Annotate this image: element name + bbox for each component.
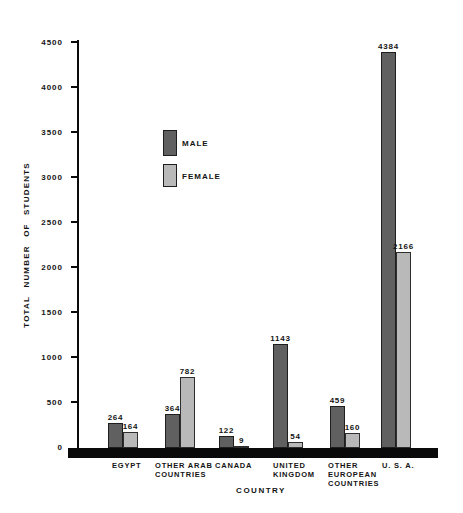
bar-female-0 <box>123 432 138 448</box>
value-label-male-5: 4384 <box>378 42 399 51</box>
bar-female-3 <box>288 442 303 448</box>
bar-female-2 <box>234 446 249 448</box>
value-label-male-4: 459 <box>330 396 346 405</box>
y-tick-label: 1500 <box>19 308 63 317</box>
value-label-male-2: 122 <box>219 426 235 435</box>
y-tick-mark <box>71 41 78 43</box>
y-axis-line <box>77 40 79 448</box>
bar-male-0 <box>108 423 123 448</box>
y-tick-label: 500 <box>19 398 63 407</box>
bar-female-4 <box>345 433 360 448</box>
value-label-female-0: 164 <box>123 422 139 431</box>
value-label-male-3: 1143 <box>270 334 291 343</box>
legend-swatch-male <box>163 130 177 156</box>
legend-label-male: MALE <box>182 139 209 148</box>
y-tick-label: 4500 <box>19 38 63 47</box>
category-label-2: CANADA <box>215 461 252 470</box>
y-tick-label: 3500 <box>19 128 63 137</box>
bar-male-3 <box>273 344 288 448</box>
category-label-5: U. S. A. <box>382 461 414 470</box>
legend-label-female: FEMALE <box>182 172 221 181</box>
y-tick-label: 4000 <box>19 83 63 92</box>
y-tick-mark <box>71 401 78 403</box>
y-tick-label: 2500 <box>19 218 63 227</box>
category-label-4: OTHER EUROPEAN COUNTRIES <box>328 461 379 488</box>
value-label-female-5: 2166 <box>393 242 414 251</box>
x-axis-title: COUNTRY <box>236 486 286 495</box>
value-label-female-2: 9 <box>239 436 244 445</box>
category-label-0: EGYPT <box>112 461 141 470</box>
student-bar-chart: TOTAL NUMBER OF STUDENTS COUNTRY MALE FE… <box>0 0 463 513</box>
y-tick-mark <box>71 131 78 133</box>
bar-female-5 <box>396 252 411 448</box>
y-tick-label: 3000 <box>19 173 63 182</box>
value-label-female-4: 160 <box>345 423 361 432</box>
y-tick-label: 0 <box>19 443 63 452</box>
value-label-male-0: 264 <box>108 413 124 422</box>
value-label-female-3: 54 <box>290 432 301 441</box>
y-tick-mark <box>71 176 78 178</box>
y-tick-mark <box>71 221 78 223</box>
x-axis-baseline <box>68 448 438 458</box>
legend-swatch-female <box>163 164 177 187</box>
y-tick-mark <box>71 266 78 268</box>
category-label-1: OTHER ARAB COUNTRIES <box>155 461 213 479</box>
y-tick-mark <box>71 356 78 358</box>
y-tick-mark <box>71 311 78 313</box>
y-tick-label: 1000 <box>19 353 63 362</box>
bar-female-1 <box>180 377 195 448</box>
value-label-male-1: 364 <box>165 404 181 413</box>
category-label-3: UNITED KINGDOM <box>273 461 315 479</box>
bar-male-4 <box>330 406 345 448</box>
bar-male-1 <box>165 414 180 448</box>
bar-male-2 <box>219 436 234 448</box>
y-axis-title: TOTAL NUMBER OF STUDENTS <box>22 162 31 328</box>
y-tick-label: 2000 <box>19 263 63 272</box>
value-label-female-1: 782 <box>180 367 196 376</box>
y-tick-mark <box>71 86 78 88</box>
